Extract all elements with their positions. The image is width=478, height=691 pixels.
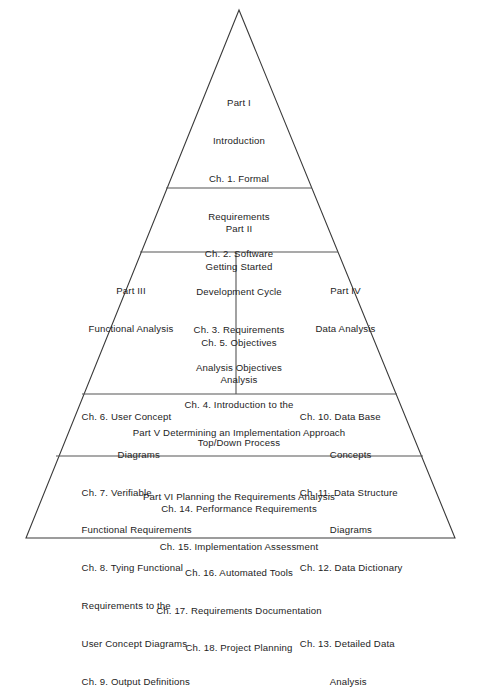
part-3-label: Part III <box>26 285 236 298</box>
layer-part-6: Part VI Planning the Requirements Analys… <box>0 466 478 680</box>
part-6-spacer <box>0 529 478 542</box>
part-1-entry-0: Ch. 1. Formal <box>0 173 478 186</box>
part-1-label: Part I <box>0 97 478 110</box>
part-6-entry-2: Ch. 17. Requirements Documentation <box>0 605 478 618</box>
part-3-spacer <box>26 361 236 374</box>
part-6-entry-1: Ch. 16. Automated Tools <box>0 567 478 580</box>
part-4-title: Data Analysis <box>236 323 455 336</box>
part-6-entry-3: Ch. 18. Project Planning <box>0 642 478 655</box>
part-5-label: Part V Determining an Implementation App… <box>0 427 478 440</box>
part-6-label: Part VI Planning the Requirements Analys… <box>0 491 478 504</box>
part-2-label: Part II <box>0 223 478 236</box>
part-3-title: Functional Analysis <box>26 323 236 336</box>
part-1-title: Introduction <box>0 135 478 148</box>
part-4-label: Part IV <box>236 285 455 298</box>
part-4-spacer <box>236 361 455 374</box>
